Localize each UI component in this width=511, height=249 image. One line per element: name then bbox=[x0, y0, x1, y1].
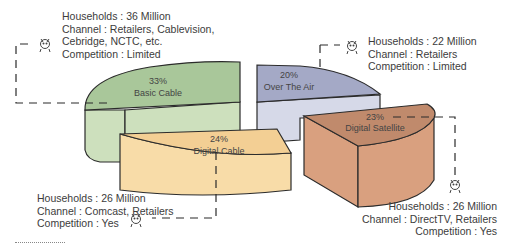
slice-digital-satellite-percent: 23% bbox=[366, 112, 384, 122]
leader-over-the-air bbox=[320, 45, 340, 70]
callout-basic-cable-channel: Channel : Retailers, Cablevision, bbox=[62, 23, 214, 36]
callout-over-the-air-competition: Competition : Limited bbox=[368, 60, 477, 73]
slice-digital-satellite[interactable]: 23% Digital Satellite bbox=[304, 104, 435, 207]
bug-mascot-icon bbox=[347, 41, 357, 54]
footer-dotted-divider bbox=[15, 242, 65, 243]
callout-over-the-air-channel: Channel : Retailers bbox=[368, 48, 477, 61]
slice-digital-satellite-label: Digital Satellite bbox=[345, 123, 405, 133]
callout-digital-cable-competition: Competition : Yes bbox=[37, 217, 174, 230]
callout-digital-satellite-channel: Channel : DirectTV, Retailers bbox=[362, 213, 497, 226]
callout-basic-cable-channel-cont: Cebridge, NCTC, etc. bbox=[62, 35, 214, 48]
callout-digital-satellite: Households : 26 Million Channel : Direct… bbox=[362, 200, 497, 238]
bug-mascot-icon bbox=[40, 39, 50, 52]
slice-digital-cable-label: Digital Cable bbox=[193, 146, 244, 156]
callout-digital-cable: Households : 26 Million Channel : Comcas… bbox=[37, 192, 174, 230]
callout-basic-cable: Households : 36 Million Channel : Retail… bbox=[62, 10, 214, 60]
slice-over-the-air-label: Over The Air bbox=[264, 82, 314, 92]
callout-over-the-air: Households : 22 Million Channel : Retail… bbox=[368, 35, 477, 73]
callout-digital-satellite-households: Households : 26 Million bbox=[362, 200, 497, 213]
slice-basic-cable-percent: 33% bbox=[149, 76, 167, 86]
slice-over-the-air-percent: 20% bbox=[280, 70, 298, 80]
callout-digital-satellite-competition: Competition : Yes bbox=[362, 225, 497, 238]
bug-mascot-icon bbox=[450, 180, 460, 193]
slice-digital-cable[interactable]: 24% Digital Cable bbox=[120, 129, 291, 195]
callout-digital-cable-channel: Channel : Comcast, Retailers bbox=[37, 205, 174, 218]
callout-basic-cable-households: Households : 36 Million bbox=[62, 10, 214, 23]
slice-digital-cable-percent: 24% bbox=[210, 134, 228, 144]
callout-over-the-air-households: Households : 22 Million bbox=[368, 35, 477, 48]
callout-digital-cable-households: Households : 26 Million bbox=[37, 192, 174, 205]
slice-basic-cable-label: Basic Cable bbox=[134, 88, 182, 98]
callout-basic-cable-competition: Competition : Limited bbox=[62, 48, 214, 61]
